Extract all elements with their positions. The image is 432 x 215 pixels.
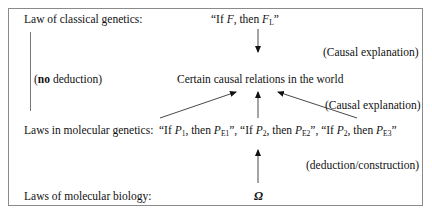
arrow-up-left-icon <box>278 92 357 118</box>
arrow-up-right-icon <box>160 92 236 118</box>
arrows-layer <box>0 0 432 215</box>
